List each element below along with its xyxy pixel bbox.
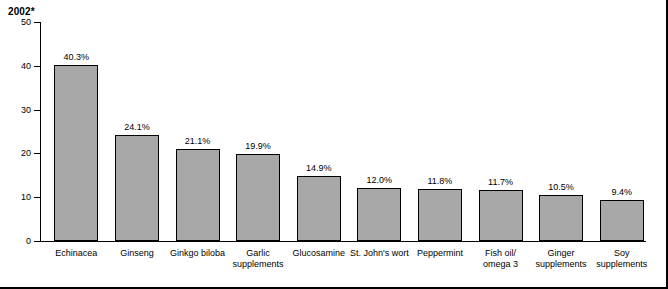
y-tick-label: 40 <box>21 61 31 71</box>
x-category-label-line: St. John's wort <box>350 248 409 259</box>
bar <box>115 135 159 241</box>
y-tick-label: 50 <box>21 17 31 27</box>
x-category-label: Gingersupplements <box>536 248 587 270</box>
y-tick-label: 0 <box>26 236 31 246</box>
bar <box>418 189 462 241</box>
bar-group: 21.1% <box>176 21 220 241</box>
bar-group: 14.9% <box>297 21 341 241</box>
bar-value-label: 11.7% <box>488 177 513 187</box>
bar-value-label: 9.4% <box>611 187 632 197</box>
x-category-label-line: Ginger <box>536 248 587 259</box>
y-axis-line <box>40 22 41 242</box>
bar-group: 11.7% <box>479 21 523 241</box>
y-tick-mark <box>34 22 40 23</box>
x-category-label: Fish oil/omega 3 <box>483 248 518 270</box>
bar-value-label: 11.8% <box>427 176 452 186</box>
x-category-label: St. John's wort <box>350 248 409 259</box>
x-category-label: Ginkgo biloba <box>170 248 225 259</box>
y-tick-mark <box>34 197 40 198</box>
y-tick-mark <box>34 241 40 242</box>
bar <box>297 176 341 241</box>
x-category-label-line: supplements <box>233 259 284 270</box>
bar <box>236 154 280 241</box>
x-category-label-line: Echinacea <box>55 248 97 259</box>
bar-group: 11.8% <box>418 21 462 241</box>
bar <box>539 195 583 241</box>
bar-group: 9.4% <box>600 21 644 241</box>
bar-group: 10.5% <box>539 21 583 241</box>
x-category-label-line: Ginseng <box>120 248 154 259</box>
x-category-label: Echinacea <box>55 248 97 259</box>
bar-group: 40.3% <box>54 21 98 241</box>
x-category-label-line: supplements <box>596 259 647 270</box>
bar-value-label: 40.3% <box>64 52 90 62</box>
x-category-label-line: omega 3 <box>483 259 518 270</box>
x-category-label: Soysupplements <box>596 248 647 270</box>
y-tick-mark <box>34 153 40 154</box>
x-category-label-line: supplements <box>536 259 587 270</box>
bar-value-label: 24.1% <box>124 122 150 132</box>
bar <box>600 200 644 241</box>
y-tick-mark <box>34 110 40 111</box>
x-category-label: Ginseng <box>120 248 154 259</box>
bar <box>54 65 98 242</box>
y-tick-label: 30 <box>21 105 31 115</box>
bar-group: 12.0% <box>357 21 401 241</box>
y-tick-mark <box>34 66 40 67</box>
x-category-label-line: Ginkgo biloba <box>170 248 225 259</box>
x-category-label: Glucosamine <box>292 248 345 259</box>
chart-figure: 2002* 01020304050 40.3%Echinacea24.1%Gin… <box>0 0 668 289</box>
bar <box>479 190 523 241</box>
plot-area: 01020304050 40.3%Echinacea24.1%Ginseng21… <box>40 22 646 242</box>
x-category-label-line: Garlic <box>233 248 284 259</box>
chart-title: 2002* <box>8 6 35 17</box>
bar-group: 24.1% <box>115 21 159 241</box>
bar-value-label: 19.9% <box>245 141 271 151</box>
bar <box>357 188 401 241</box>
bar-value-label: 10.5% <box>548 182 574 192</box>
bar-group: 19.9% <box>236 21 280 241</box>
x-category-label: Peppermint <box>417 248 463 259</box>
bar-value-label: 12.0% <box>367 175 393 185</box>
x-category-label-line: Glucosamine <box>292 248 345 259</box>
y-tick-label: 20 <box>21 148 31 158</box>
x-category-label-line: Fish oil/ <box>483 248 518 259</box>
x-axis-line <box>40 241 646 242</box>
x-category-label: Garlicsupplements <box>233 248 284 270</box>
x-category-label-line: Soy <box>596 248 647 259</box>
bar-value-label: 14.9% <box>306 163 332 173</box>
bar-value-label: 21.1% <box>185 136 211 146</box>
x-category-label-line: Peppermint <box>417 248 463 259</box>
y-tick-label: 10 <box>21 192 31 202</box>
bar <box>176 149 220 241</box>
